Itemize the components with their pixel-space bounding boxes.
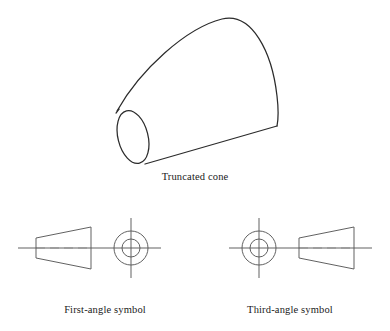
cone-small-face-ellipse bbox=[112, 107, 154, 167]
first-angle-symbol bbox=[18, 218, 161, 278]
third-angle-symbol bbox=[229, 218, 372, 278]
cone-lower-edge bbox=[145, 126, 277, 164]
cone-large-face-arc bbox=[117, 18, 278, 126]
third-angle-symbol-caption: Third-angle symbol bbox=[205, 303, 375, 316]
truncated-cone-caption: Truncated cone bbox=[0, 170, 390, 183]
truncated-cone-pictorial bbox=[112, 18, 278, 167]
technical-drawing-canvas bbox=[0, 0, 390, 331]
figure-page: Truncated cone First-angle symbol Third-… bbox=[0, 0, 390, 331]
first-angle-symbol-caption: First-angle symbol bbox=[20, 303, 190, 316]
